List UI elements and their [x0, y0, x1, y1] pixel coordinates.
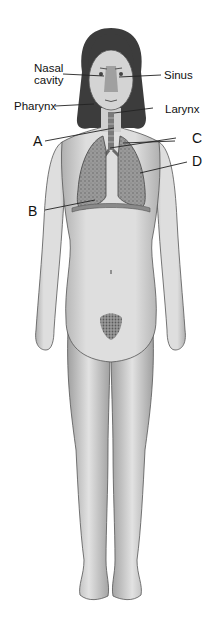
label-pharynx: Pharynx [14, 100, 56, 112]
label-a: A [33, 134, 42, 148]
anatomy-figure [0, 0, 221, 619]
label-nasal-cavity-line2: cavity [34, 74, 63, 86]
label-nasal-cavity-line1: Nasal [34, 62, 63, 74]
right-leg [111, 330, 153, 600]
label-larynx: Larynx [165, 103, 200, 115]
label-sinus: Sinus [164, 69, 193, 81]
nasal-cavity-shading [104, 66, 118, 92]
label-c: C [192, 131, 202, 145]
label-b: B [28, 204, 37, 218]
label-d: D [192, 154, 202, 168]
left-leg [68, 330, 110, 600]
